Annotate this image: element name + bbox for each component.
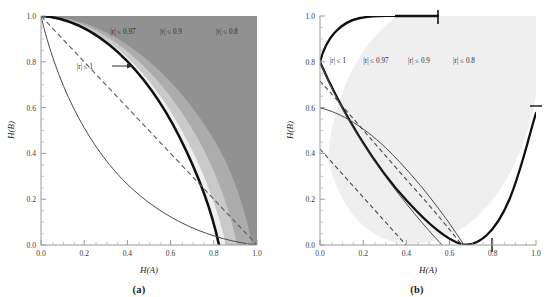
panel-b-plot: 0.0 0.2 0.4 0.6 0.8 1.0 0.0 0.2 0.4 0.6 …: [278, 0, 556, 297]
figure-container: 0.0 0.2 0.4 0.6 0.8 1.0 0.0 0.2 0.4 0.6 …: [0, 0, 556, 297]
panel-a: 0.0 0.2 0.4 0.6 0.8 1.0 0.0 0.2 0.4 0.6 …: [0, 0, 278, 297]
x-tick-label: 0.2: [358, 249, 368, 258]
panel-b-caption: (b): [278, 284, 556, 295]
x-tick-label: 0.6: [166, 249, 176, 258]
x-tick-label: 0.8: [488, 249, 498, 258]
y-tick-label: 0.0: [27, 241, 37, 250]
x-axis-title: H(A): [418, 265, 437, 275]
y-tick-label: 0.6: [27, 104, 37, 113]
y-axis-title: H(B): [6, 121, 16, 140]
x-tick-label: 0.4: [123, 249, 133, 258]
x-tick-label: 0.6: [445, 249, 455, 258]
x-tick-label: 0.0: [36, 249, 46, 258]
y-tick-label: 1.0: [27, 12, 37, 21]
x-tick-label: 0.4: [402, 249, 412, 258]
y-tick-label: 0.2: [306, 195, 316, 204]
x-tick-label: 0.8: [209, 249, 219, 258]
band-label-r-08: |r| ≤ 0.8: [453, 57, 475, 65]
y-tick-label: 0.8: [27, 58, 37, 67]
x-axis-title: H(A): [139, 265, 158, 275]
y-tick-label: 0.6: [306, 104, 316, 113]
y-tick-label: 1.0: [306, 12, 316, 21]
y-tick-label: 0.4: [27, 149, 37, 158]
y-tick-label: 0.8: [306, 58, 316, 67]
x-tick-label: 0.0: [315, 249, 325, 258]
band-label-r-097: |r| ≤ 0.97: [363, 57, 389, 65]
y-axis-title: H(B): [285, 121, 295, 140]
panel-a-caption: (a): [0, 284, 278, 295]
band-label-r-09: |r| ≤ 0.9: [408, 57, 430, 65]
panel-a-plot: 0.0 0.2 0.4 0.6 0.8 1.0 0.0 0.2 0.4 0.6 …: [0, 0, 278, 297]
x-tick-label: 0.2: [79, 249, 89, 258]
x-tick-label: 1.0: [252, 249, 262, 258]
band-label-r-097: |r| ≤ 0.97: [110, 28, 136, 36]
y-tick-label: 0.4: [306, 149, 316, 158]
y-tick-label: 0.0: [306, 241, 316, 250]
panel-b: 0.0 0.2 0.4 0.6 0.8 1.0 0.0 0.2 0.4 0.6 …: [278, 0, 556, 297]
band-label-r-09: |r| ≤ 0.9: [160, 28, 182, 36]
band-label-r-08: |r| ≤ 0.8: [216, 28, 238, 36]
callout-label-r-1: |r| ≤ 1: [77, 63, 94, 71]
y-tick-label: 0.2: [27, 195, 37, 204]
band-label-r-1: |r| ≤ 1: [330, 57, 347, 65]
x-tick-label: 1.0: [531, 249, 541, 258]
